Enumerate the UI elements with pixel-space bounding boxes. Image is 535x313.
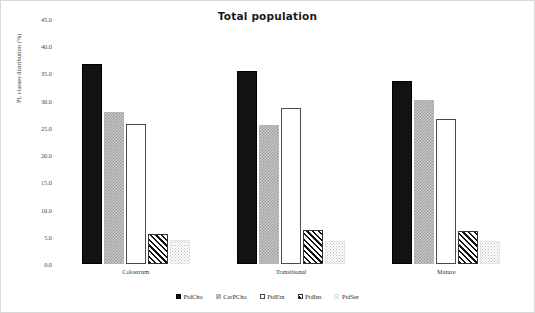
bar-cerpcho-colostrum[interactable] [104,112,124,264]
y-tick-label: 15.0 [41,179,52,186]
legend-swatch-icon [260,294,265,299]
legend-label: PtdEtn [267,293,284,300]
legend-swatch-icon [298,294,303,299]
bar-ptdser-mature[interactable] [480,241,500,264]
plot-area: 45.040.035.030.025.020.015.010.05.00.0 C… [58,19,524,264]
bar-ptdetn-transitional[interactable] [281,108,301,264]
legend-item-cerpcho[interactable]: CerPCho [216,293,247,300]
bar-ptdser-transitional[interactable] [325,241,345,264]
bar-ptdcho-colostrum[interactable] [82,64,102,264]
bar-ptdins-mature[interactable] [458,231,478,264]
legend-swatch-icon [176,294,181,299]
y-tick-label: 30.0 [41,97,52,104]
bar-ptdcho-mature[interactable] [392,81,412,264]
y-axis-title: PL classes distribution (%) [15,0,22,103]
bar-cerpcho-mature[interactable] [414,100,434,264]
chart-legend: PtdChoCerPChoPtdEtnPtdInsPtdSer [1,293,534,300]
bar-group-colostrum: Colostrum [82,19,190,264]
y-tick-label: 0.0 [44,261,52,268]
x-category-label: Mature [437,268,455,275]
bar-group-transitional: Transitional [237,19,345,264]
bar-groups: ColostrumTransitionalMature [58,19,524,264]
legend-item-ptdins[interactable]: PtdIns [298,293,322,300]
x-category-label: Colostrum [122,268,149,275]
legend-label: PtdCho [184,293,203,300]
bar-ptdcho-transitional[interactable] [237,71,257,264]
bar-ptdins-colostrum[interactable] [148,234,168,264]
bar-ptdins-transitional[interactable] [303,230,323,264]
bar-ptdser-colostrum[interactable] [170,240,190,264]
legend-swatch-icon [216,294,221,299]
legend-label: PtdIns [305,293,321,300]
y-tick-label: 40.0 [41,43,52,50]
y-tick-label: 10.0 [41,206,52,213]
legend-label: CerPCho [223,293,246,300]
y-tick-label: 25.0 [41,124,52,131]
y-tick-label: 20.0 [41,152,52,159]
bar-ptdetn-colostrum[interactable] [126,124,146,264]
legend-item-ptdcho[interactable]: PtdCho [176,293,203,300]
y-tick-label: 35.0 [41,70,52,77]
bar-ptdetn-mature[interactable] [436,119,456,264]
y-tick-label: 45.0 [41,16,52,23]
legend-item-ptdetn[interactable]: PtdEtn [260,293,285,300]
bar-group-mature: Mature [392,19,500,264]
chart-figure: Total population PL classes distribution… [0,0,535,313]
legend-item-ptdser[interactable]: PtdSer [334,293,359,300]
bar-cerpcho-transitional[interactable] [259,125,279,264]
x-category-label: Transitional [276,268,307,275]
y-tick-label: 5.0 [44,233,52,240]
legend-label: PtdSer [342,293,359,300]
legend-swatch-icon [334,294,339,299]
